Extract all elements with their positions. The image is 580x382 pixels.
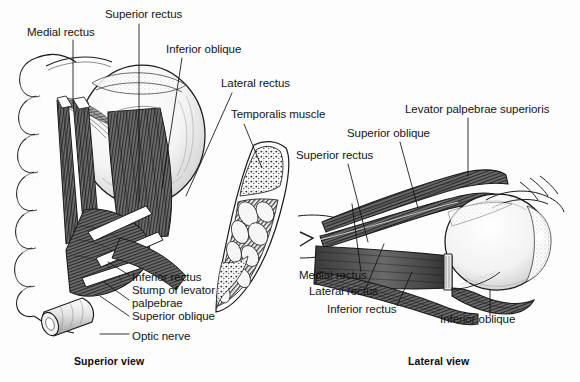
label-temporalis-muscle: Temporalis muscle <box>231 108 325 122</box>
label-palpebrae: palpebrae <box>132 297 183 311</box>
label-superior-oblique-lateral: Superior oblique <box>347 127 430 141</box>
caption-superior-view: Superior view <box>74 355 144 367</box>
label-inferior-rectus-lateral: Inferior rectus <box>327 303 397 317</box>
label-medial-rectus-lateral: Medial rectus <box>299 269 367 283</box>
label-stump-of-levator: Stump of levator <box>132 284 215 298</box>
label-levator-palpebrae-superioris: Levator palpebrae superioris <box>405 103 549 117</box>
label-inferior-rectus: Inferior rectus <box>132 271 202 285</box>
label-superior-rectus-lateral: Superior rectus <box>296 149 373 163</box>
label-inferior-oblique-lateral: Inferior oblique <box>440 313 515 327</box>
label-inferior-oblique: Inferior oblique <box>166 43 241 57</box>
label-lateral-rectus-lateral: Lateral rectus <box>309 285 378 299</box>
corneal-highlight <box>536 232 544 242</box>
label-medial-rectus: Medial rectus <box>27 26 95 40</box>
label-superior-rectus: Superior rectus <box>105 8 182 22</box>
caption-lateral-view: Lateral view <box>408 355 469 367</box>
rectus-tendon-insertion <box>444 254 452 290</box>
label-lateral-rectus: Lateral rectus <box>221 77 290 91</box>
label-superior-oblique: Superior oblique <box>132 310 215 324</box>
label-optic-nerve: Optic nerve <box>132 330 190 344</box>
